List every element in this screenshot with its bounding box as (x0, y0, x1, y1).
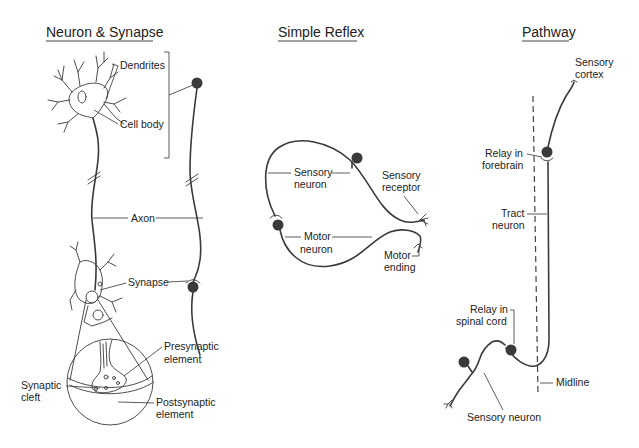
label-synapse: Synapse (128, 276, 169, 288)
label-tract-neuron-1: Tract (501, 207, 525, 219)
post-nucleus (93, 310, 103, 320)
reflex-synapse-cap (270, 215, 282, 218)
label-tract-neuron-2: neuron (492, 219, 525, 231)
zoom-line-right (98, 300, 148, 380)
synapse-magnify-circle (86, 291, 98, 303)
dendrite (70, 290, 112, 326)
label-sensory-neuron-1: Sensory (294, 166, 333, 178)
synapse-magnified (67, 300, 153, 425)
label-presynaptic-1: Presynaptic (164, 340, 219, 352)
panel-title-pathway: Pathway (522, 24, 576, 40)
forebrain-relay-soma (542, 147, 553, 158)
label-postsynaptic-2: element (156, 408, 193, 420)
label-sensory-receptor-1: Sensory (382, 169, 421, 181)
label-sensory-cortex-2: cortex (575, 68, 604, 80)
leader-sensory-receptor (404, 196, 418, 214)
neuron-diagram: Neuron & Synapse (0, 0, 639, 448)
label-sensory-neuron: Sensory neuron (467, 411, 541, 423)
soma-dot (192, 78, 203, 89)
leader-sensory-neuron (484, 373, 503, 410)
axon-terminal (98, 282, 102, 286)
label-sensory-cortex-1: Sensory (575, 56, 614, 68)
cell-body-outline (69, 83, 108, 118)
leader-postsynaptic (118, 402, 154, 403)
microtubules (103, 342, 107, 368)
sensory-soma (352, 153, 363, 164)
panel-title-simple-reflex: Simple Reflex (278, 24, 364, 40)
postsynaptic-soma (188, 282, 199, 293)
label-sensory-neuron-2: neuron (294, 178, 327, 190)
nucleus (78, 91, 86, 103)
sensory-receptor-endings (420, 214, 428, 226)
vesicle (104, 375, 108, 379)
label-midline: Midline (556, 376, 589, 388)
postsynaptic-membrane (68, 376, 152, 388)
label-axon: Axon (131, 212, 155, 224)
vesicle (113, 377, 116, 380)
leader-relay-spinal (510, 310, 514, 344)
panel-title-neuron-synapse: Neuron & Synapse (46, 24, 164, 40)
break-mark (186, 178, 198, 186)
dendrite (96, 52, 108, 82)
label-synaptic-cleft-1: Synaptic (21, 379, 61, 391)
label-motor-neuron-1: Motor (304, 230, 331, 242)
leader-synapse-left (100, 283, 126, 290)
motor-soma (273, 220, 284, 231)
panel-pathway: Pathway Sensory cortex Relay in forebrai… (444, 24, 614, 423)
panel-simple-reflex: Simple Reflex Sensory neuron Sensory rec… (266, 24, 428, 273)
dendrite (100, 254, 116, 270)
label-postsynaptic-1: Postsynaptic (156, 396, 216, 408)
label-relay-forebrain-2: forebrain (482, 159, 524, 171)
sensory-stalk (468, 366, 472, 372)
label-cell-body: Cell body (120, 118, 165, 130)
dendrite (58, 114, 78, 132)
label-relay-spinal-2: spinal cord (456, 315, 507, 327)
schematic-neuron (186, 78, 203, 356)
tract-neuron (506, 162, 549, 366)
vesicle (117, 382, 120, 385)
dendrite (54, 66, 72, 92)
forebrain-synapse-cap (541, 158, 553, 161)
dendrite (100, 296, 122, 312)
presynaptic-terminal (92, 340, 126, 393)
label-motor-ending-1: Motor (384, 249, 411, 261)
label-motor-ending-2: ending (384, 261, 416, 273)
panel-neuron-synapse: Neuron & Synapse (21, 24, 219, 425)
label-motor-neuron-2: neuron (300, 243, 333, 255)
dendrite (70, 242, 80, 262)
break-mark (88, 172, 100, 180)
break-mark (186, 174, 198, 182)
schematic-axon (190, 88, 201, 283)
leader-synapse-right (168, 281, 188, 282)
label-dendrites: Dendrites (120, 59, 165, 71)
sensory-neuron-axon (450, 341, 505, 406)
label-presynaptic-2: element (164, 353, 201, 365)
dendrite (48, 100, 70, 110)
zoom-line-left (70, 300, 86, 380)
midline-dashed (533, 96, 538, 395)
thalamocortical-axon (548, 82, 574, 147)
bracket-leader (169, 85, 193, 95)
label-synaptic-cleft-2: cleft (21, 391, 40, 403)
label-relay-spinal-1: Relay in (470, 303, 508, 315)
label-relay-forebrain-1: Relay in (485, 147, 523, 159)
dendrite (74, 60, 84, 86)
label-sensory-receptor-2: receptor (382, 181, 421, 193)
leader-cell-body (94, 110, 118, 124)
spinal-relay-soma (506, 345, 517, 356)
